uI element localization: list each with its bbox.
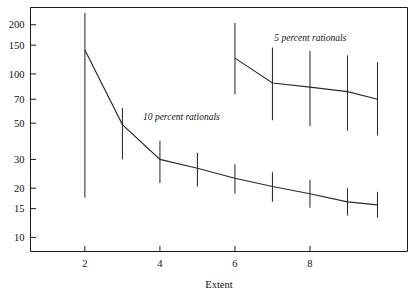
x-tick-label: 4 (157, 258, 163, 269)
x-tick-label: 2 (82, 258, 87, 269)
y-tick-label: 50 (14, 118, 25, 129)
y-tick-label: 15 (14, 203, 25, 214)
x-axis-title: Extent (205, 279, 232, 290)
x-tick-label: 8 (307, 258, 312, 269)
y-tick-label: 30 (14, 154, 25, 165)
series-line (235, 58, 378, 99)
y-tick-label: 10 (14, 232, 25, 243)
series-annotation-2: 5 percent rationals (274, 33, 346, 43)
y-tick-label: 200 (9, 19, 25, 30)
series-annotation-1: 10 percent rationals (143, 112, 220, 122)
x-tick-label: 6 (232, 258, 237, 269)
series-line (85, 50, 378, 205)
y-tick-label: 20 (14, 183, 25, 194)
y-tick-label: 70 (14, 94, 25, 105)
plot-frame (31, 8, 408, 252)
chart-canvas: 2001501007050302015102468Extent10 percen… (0, 0, 413, 297)
y-tick-label: 150 (9, 40, 25, 51)
y-tick-label: 100 (9, 69, 25, 80)
series-1 (85, 13, 378, 218)
chart-figure: 2001501007050302015102468Extent10 percen… (0, 0, 413, 297)
